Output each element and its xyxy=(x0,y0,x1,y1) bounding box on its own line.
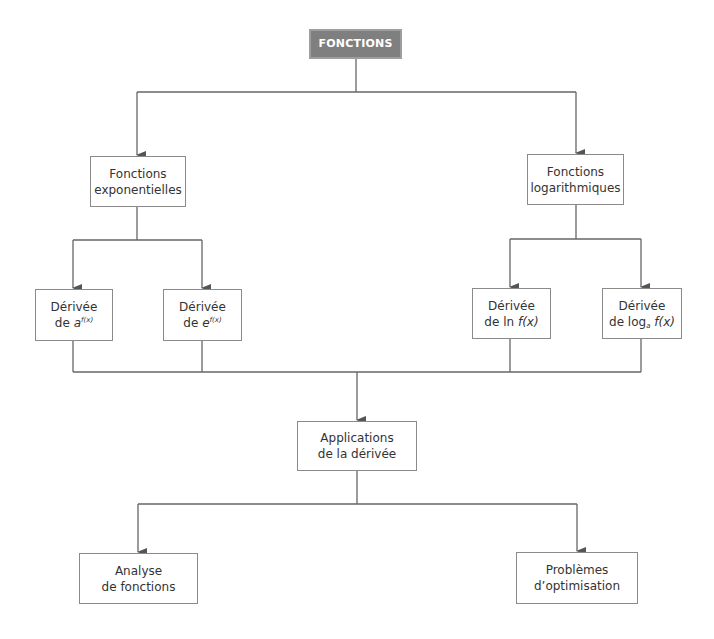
node-derivee-ln-fx: Dérivée de ln f(x) xyxy=(472,288,551,339)
node-applications-derivee: Applications de la dérivée xyxy=(297,421,417,471)
node-problemes-optimisation: Problèmes d’optimisation xyxy=(516,552,638,604)
exponent: f(x) xyxy=(210,316,222,324)
node-label-line1: Fonctions xyxy=(109,166,166,182)
prefix-text: de xyxy=(183,316,202,330)
node-label-line1: Applications xyxy=(320,430,393,446)
root-label: FONCTIONS xyxy=(318,36,392,52)
prefix-text: de log xyxy=(609,315,646,329)
node-derivee-loga-fx: Dérivée de loga f(x) xyxy=(602,288,682,339)
node-label-line2: de la dérivée xyxy=(318,446,396,462)
node-label-line1: Dérivée xyxy=(51,299,98,315)
node-label-line2: de ln f(x) xyxy=(484,314,538,330)
node-label-line1: Fonctions xyxy=(547,164,604,180)
node-label-line2: de ef(x) xyxy=(183,315,221,331)
node-label-line2: logarithmiques xyxy=(530,180,620,196)
node-label-line2: de fonctions xyxy=(102,579,176,595)
node-label-line1: Dérivée xyxy=(488,298,535,314)
base-symbol: e xyxy=(202,316,209,330)
node-label-line2: de af(x) xyxy=(55,315,93,331)
argument: f(x) xyxy=(518,315,539,329)
argument: f(x) xyxy=(650,315,675,329)
node-label-line2: de loga f(x) xyxy=(609,314,675,330)
concept-map: FONCTIONS Fonctions exponentielles Fonct… xyxy=(0,0,714,639)
node-analyse-fonctions: Analyse de fonctions xyxy=(79,553,198,604)
node-derivee-e-fx: Dérivée de ef(x) xyxy=(163,289,242,341)
node-label-line2: d’optimisation xyxy=(534,578,620,594)
node-label-line1: Analyse xyxy=(115,563,162,579)
node-fonctions-exponentielles: Fonctions exponentielles xyxy=(90,156,186,207)
node-label-line1: Problèmes xyxy=(546,562,609,578)
node-derivee-a-fx: Dérivée de af(x) xyxy=(35,289,113,341)
node-label-line1: Dérivée xyxy=(179,299,226,315)
root-node-fonctions: FONCTIONS xyxy=(309,29,402,59)
base-symbol: a xyxy=(74,316,81,330)
node-label-line2: exponentielles xyxy=(94,182,182,198)
node-label-line1: Dérivée xyxy=(619,298,666,314)
prefix-text: de ln xyxy=(484,315,518,329)
exponent: f(x) xyxy=(81,316,93,324)
prefix-text: de xyxy=(55,316,74,330)
node-fonctions-logarithmiques: Fonctions logarithmiques xyxy=(527,154,624,205)
